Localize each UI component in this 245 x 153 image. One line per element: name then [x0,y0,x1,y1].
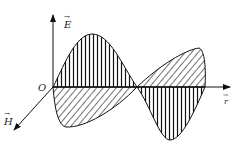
e-vector-mark: → [64,13,70,21]
e-wave-positive-lobe [53,34,137,87]
h-axis [14,87,53,130]
r-axis-label: r [224,97,229,106]
h-wave-negative-lobe [53,87,137,127]
e-wave-negative-lobe [137,87,205,140]
r-vector-mark: → [223,91,228,98]
h-vector-mark: → [4,110,10,118]
h-wave-positive-lobe [137,48,205,87]
em-wave-diagram: E → O H → r → [0,0,245,153]
origin-label: O [38,82,46,93]
